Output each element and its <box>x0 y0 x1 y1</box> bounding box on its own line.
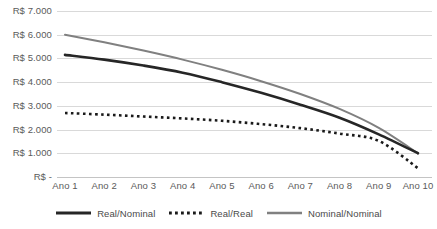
x-tick-label: Ano 3 <box>131 180 156 191</box>
y-tick-label: R$ 2.000 <box>13 125 52 135</box>
y-tick-label: R$ 3.000 <box>13 101 52 111</box>
y-tick-label: R$ 4.000 <box>13 77 52 87</box>
x-tick-label: Ano 6 <box>248 180 273 191</box>
series-layer <box>57 11 432 177</box>
legend-swatch-icon <box>266 208 303 218</box>
x-tick-label: Ano 10 <box>403 180 434 191</box>
x-tick-label: Ano 9 <box>366 180 391 191</box>
legend-swatch-icon <box>168 208 205 218</box>
legend-swatch-icon <box>55 208 92 218</box>
chart-legend: Real/NominalReal/RealNominal/Nominal <box>0 203 437 223</box>
y-tick-label: R$ 1.000 <box>13 148 52 158</box>
x-tick-label: Ano 5 <box>209 180 234 191</box>
gridline <box>57 177 432 178</box>
x-tick-label: Ano 4 <box>170 180 195 191</box>
legend-item[interactable]: Real/Real <box>168 208 253 219</box>
legend-item[interactable]: Nominal/Nominal <box>266 208 382 219</box>
legend-label: Real/Nominal <box>97 208 155 219</box>
chart-container: R$ -R$ 1.000R$ 2.000R$ 3.000R$ 4.000R$ 5… <box>0 0 437 229</box>
y-tick-label: R$ 5.000 <box>13 53 52 63</box>
x-tick-label: Ano 7 <box>288 180 313 191</box>
legend-label: Real/Real <box>210 208 253 219</box>
y-tick-label: R$ 6.000 <box>13 30 52 40</box>
x-axis: Ano 1Ano 2Ano 3Ano 4Ano 5Ano 6Ano 7Ano 8… <box>57 180 432 194</box>
series-line <box>65 35 418 154</box>
plot-area <box>57 11 432 177</box>
y-tick-label: R$ 7.000 <box>13 6 52 16</box>
x-tick-label: Ano 8 <box>327 180 352 191</box>
x-tick-label: Ano 1 <box>52 180 77 191</box>
legend-label: Nominal/Nominal <box>308 208 382 219</box>
y-axis: R$ -R$ 1.000R$ 2.000R$ 3.000R$ 4.000R$ 5… <box>0 0 57 190</box>
series-line <box>65 55 418 153</box>
legend-item[interactable]: Real/Nominal <box>55 208 155 219</box>
y-tick-label: R$ - <box>34 172 52 182</box>
x-tick-label: Ano 2 <box>92 180 117 191</box>
